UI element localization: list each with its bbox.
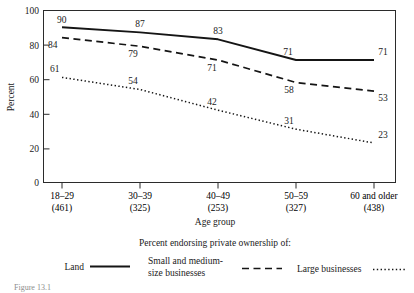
- y-tick-label-40: 40: [30, 110, 40, 120]
- y-tick-label-80: 80: [30, 41, 40, 51]
- series-line-large-businesses: [62, 77, 374, 143]
- figure-caption-strip: Figure 13.1: [0, 284, 414, 293]
- data-label-smb-2: 71: [207, 63, 217, 73]
- y-axis-ticks: [44, 11, 50, 183]
- x-tick-label-4: 60 and older: [350, 191, 398, 201]
- x-tick-label-2: 40–49: [206, 191, 230, 201]
- line-chart: 100 80 60 40 20 0 Percent 18–29 (461) 30…: [0, 0, 414, 293]
- x-tick-count-1: (325): [130, 203, 151, 214]
- y-tick-label-100: 100: [25, 6, 40, 16]
- x-tick-count-2: (253): [208, 203, 229, 214]
- x-tick-count-0: (461): [52, 203, 73, 214]
- data-label-large-1: 54: [128, 76, 138, 86]
- legend-label-smb-line1: Small and medium-: [148, 256, 223, 266]
- y-axis-title: Percent: [6, 82, 16, 111]
- plot-frame: [44, 11, 396, 183]
- data-label-large-2: 42: [207, 97, 217, 107]
- legend-label-smb-line2: size businesses: [148, 268, 206, 278]
- legend-label-large: Large businesses: [297, 264, 362, 274]
- legend-heading: Percent endorsing private ownership of:: [139, 238, 291, 248]
- data-label-land-2: 83: [213, 26, 223, 36]
- data-label-smb-4: 53: [378, 93, 388, 103]
- figure-caption-text: Figure 13.1: [14, 284, 51, 292]
- x-tick-label-0: 18–29: [50, 191, 74, 201]
- data-label-land-4: 71: [378, 47, 388, 57]
- data-label-smb-1: 79: [128, 49, 138, 59]
- data-label-land-1: 87: [135, 19, 145, 29]
- series-line-small-medium-businesses: [62, 38, 374, 92]
- y-tick-label-60: 60: [30, 75, 40, 85]
- data-label-smb-0: 84: [48, 40, 58, 50]
- figure-container: 100 80 60 40 20 0 Percent 18–29 (461) 30…: [0, 0, 414, 293]
- data-label-smb-3: 58: [284, 85, 294, 95]
- data-label-large-0: 61: [50, 64, 60, 74]
- data-label-large-4: 23: [378, 130, 388, 140]
- legend-label-land: Land: [64, 262, 84, 272]
- data-label-land-0: 90: [57, 15, 67, 25]
- x-tick-count-4: (438): [364, 203, 385, 214]
- data-label-large-3: 31: [284, 116, 294, 126]
- x-tick-label-3: 50–59: [284, 191, 308, 201]
- y-tick-label-20: 20: [30, 144, 40, 154]
- x-axis-title: Age group: [195, 217, 236, 227]
- data-label-land-3: 71: [283, 47, 293, 57]
- x-tick-label-1: 30–39: [128, 191, 152, 201]
- x-axis-ticks: [62, 183, 374, 189]
- y-tick-label-0: 0: [34, 178, 39, 188]
- x-tick-count-3: (327): [286, 203, 307, 214]
